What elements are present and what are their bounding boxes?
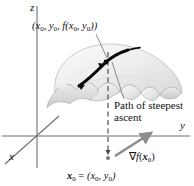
z-axis-label: z [30, 2, 34, 14]
base-point-dot [106, 156, 110, 160]
path-label-line2: ascent [114, 112, 183, 124]
gradient-label: ∇f(x0) [129, 151, 155, 163]
x-axis-label: x [9, 151, 14, 163]
base-point-label: x0 = (x0, y0) [67, 170, 115, 182]
surface-point-label: (x0, y0, f(x0, y0)) [32, 20, 97, 32]
steepest-ascent-figure: z y x (x0, y0, f(x0, y0)) Path of steepe… [0, 0, 194, 186]
path-of-steepest-ascent-label: Path of steepest ascent [114, 100, 183, 124]
surface-point-dot [104, 60, 109, 65]
